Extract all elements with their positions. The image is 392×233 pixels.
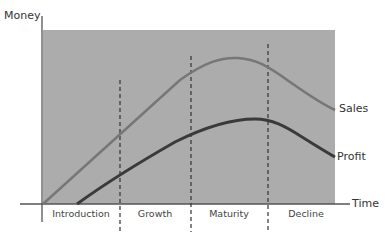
phase-label-maturity: Maturity	[191, 208, 267, 219]
profit-label: Profit	[337, 150, 366, 163]
sales-label: Sales	[339, 102, 368, 115]
y-axis-label: Money	[4, 9, 40, 22]
phase-label-decline: Decline	[268, 208, 344, 219]
plot-area	[43, 30, 335, 204]
x-axis-label: Time	[352, 197, 379, 210]
product-lifecycle-chart	[0, 0, 392, 233]
phase-label-introduction: Introduction	[43, 208, 119, 219]
phase-label-growth: Growth	[117, 208, 193, 219]
